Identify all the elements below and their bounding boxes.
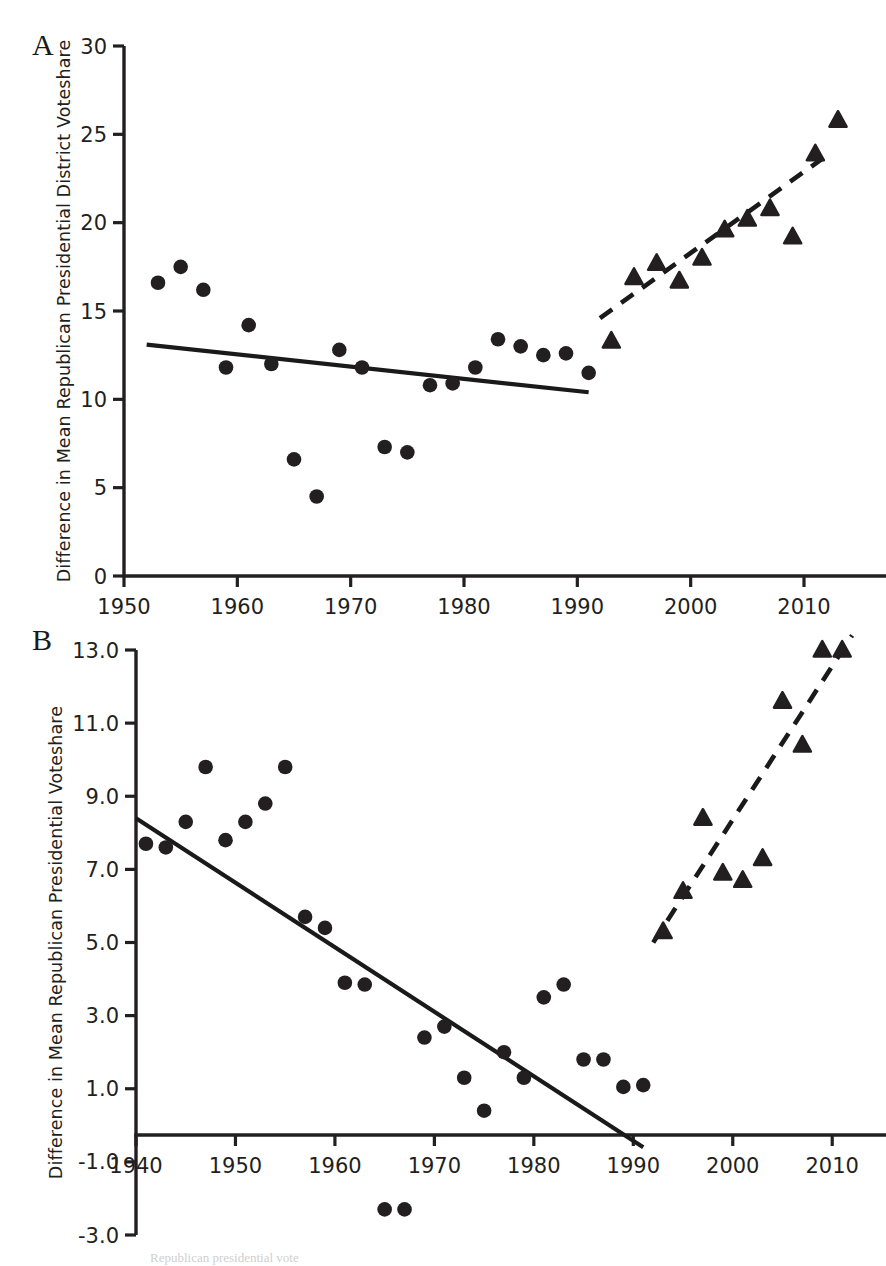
data-point-circle [377,1202,392,1217]
data-point-circle [173,260,188,275]
data-point-circle [423,378,438,393]
data-point-circle [264,357,279,372]
y-tick-label: 5.0 [86,931,119,955]
data-point-circle [318,921,333,936]
panel-a: A 05101520253019501960197019801990200020… [0,0,886,620]
data-point-circle [417,1030,432,1045]
data-point-circle [309,489,324,504]
data-point-circle [445,376,460,391]
data-point-circle [581,366,596,381]
data-point-triangle [714,864,731,879]
data-point-triangle [834,641,851,656]
data-point-circle [497,1045,512,1060]
data-point-circle [258,796,273,811]
data-point-circle [196,283,211,298]
data-point-circle [400,445,415,460]
data-point-triangle [814,641,831,656]
data-point-circle [468,360,483,375]
data-point-circle [238,815,253,830]
x-tick-label: 1960 [308,1154,361,1178]
panel-a-plot: 0510152025301950196019701980199020002010… [0,0,886,620]
x-tick-label: 1990 [607,1154,660,1178]
y-tick-label: 3.0 [86,1004,119,1028]
data-point-triangle [754,849,771,864]
data-point-circle [151,275,166,290]
y-tick-label: 9.0 [86,785,119,809]
panel-b: -3.0-1.01.03.05.07.09.011.013.0194019501… [0,612,886,1262]
x-tick-label: 1970 [408,1154,461,1178]
data-point-circle [178,815,193,830]
y-tick-label: 13.0 [72,639,119,663]
data-point-triangle [794,736,811,751]
x-tick-label: 2010 [805,1154,858,1178]
data-point-circle [377,440,392,455]
data-point-circle [198,760,213,775]
data-point-circle [355,360,370,375]
figure-caption-fragment: Republican presidential vote [150,1250,850,1266]
data-point-circle [517,1070,532,1085]
x-tick-label: 1950 [209,1154,262,1178]
data-point-circle [477,1103,492,1118]
data-point-circle [338,975,353,990]
data-point-circle [491,332,506,347]
data-point-circle [559,346,574,361]
panel-b-plot: -3.0-1.01.03.05.07.09.011.013.0194019501… [0,612,886,1262]
data-point-triangle [625,268,642,283]
data-point-triangle [655,923,672,938]
y-tick-label: 20 [80,211,107,235]
data-point-triangle [671,272,688,287]
data-point-triangle [734,871,751,886]
panel-a-label: A [32,30,54,60]
data-point-triangle [603,332,620,347]
data-point-circle [159,840,174,855]
data-point-circle [218,833,233,848]
y-tick-label: 15 [80,300,107,324]
data-point-circle [616,1080,631,1095]
y-tick-label: 11.0 [72,712,119,736]
data-point-circle [287,452,302,467]
y-tick-label: 1.0 [86,1077,119,1101]
data-point-triangle [739,210,756,225]
data-point-triangle [761,200,778,215]
data-point-circle [513,339,528,354]
y-tick-label: 30 [80,35,107,59]
data-point-circle [457,1070,472,1085]
y-tick-label: -3.0 [78,1224,119,1248]
panel-b-label: B [32,625,52,655]
data-point-circle [332,343,347,358]
y-tick-label: 10 [80,388,107,412]
y-tick-label: 25 [80,123,107,147]
data-point-circle [596,1052,611,1067]
data-point-triangle [694,809,711,824]
x-tick-label: 1940 [109,1154,162,1178]
data-point-circle [139,836,154,851]
y-axis-title: Difference in Mean Republican Presidenti… [46,706,66,1179]
data-point-triangle [648,254,665,269]
data-point-circle [636,1078,651,1093]
data-point-circle [278,760,293,775]
data-point-triangle [774,692,791,707]
data-point-triangle [784,228,801,243]
data-point-circle [219,360,234,375]
data-point-circle [437,1019,452,1034]
y-tick-label: 5 [94,476,107,500]
x-tick-label: 1980 [507,1154,560,1178]
data-point-triangle [829,111,846,126]
data-point-circle [241,318,256,333]
y-axis-title: Difference in Mean Republican Presidenti… [54,40,74,583]
data-point-circle [298,910,313,925]
data-point-circle [576,1052,591,1067]
y-tick-label: 0 [94,565,107,589]
data-point-circle [556,977,571,992]
y-tick-label: 7.0 [86,858,119,882]
x-tick-label: 2000 [706,1154,759,1178]
data-point-circle [536,348,551,363]
data-point-circle [397,1202,412,1217]
data-point-triangle [807,145,824,160]
data-point-circle [536,990,551,1005]
data-point-circle [357,977,372,992]
